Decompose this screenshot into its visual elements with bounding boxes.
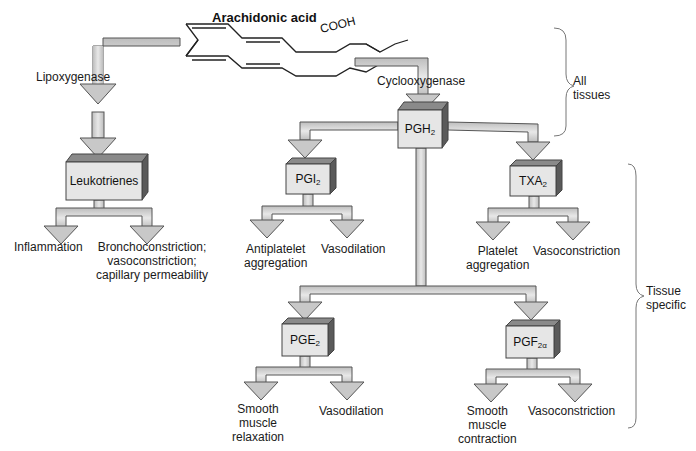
diagram-title: Arachidonic acid <box>212 10 317 25</box>
effect-platelet-aggregation: Platelet aggregation <box>466 244 529 272</box>
effect-bronchoconstriction: Bronchoconstriction; vasoconstriction; c… <box>96 240 208 282</box>
all-tissues-bracket <box>554 28 574 136</box>
effect-vasoconstriction-txa2: Vasoconstriction <box>533 244 620 258</box>
leukotrienes-label: Leukotrienes <box>66 174 142 188</box>
effect-vasoconstriction-pgf2a: Vasoconstriction <box>528 404 615 418</box>
pge2-label: PGE2 <box>282 333 328 348</box>
pgf2a-effect-arrows <box>474 358 592 402</box>
effect-vasodilation-pge2: Vasodilation <box>319 404 384 418</box>
pgi2-label: PGI2 <box>286 172 330 187</box>
diagram-canvas <box>0 0 696 451</box>
lipoxygenase-label: Lipoxygenase <box>36 70 110 84</box>
effect-antiplatelet-aggregation: Antiplatelet aggregation <box>244 242 307 270</box>
cyclooxygenase-label: Cyclooxygenase <box>377 74 465 88</box>
effect-vasodilation-pgi2: Vasodilation <box>321 242 386 256</box>
pgh2-label: PGH2 <box>398 122 442 137</box>
tissue-specific-bracket <box>628 164 644 428</box>
pgf2a-label: PGF2α <box>506 335 554 350</box>
txa2-label: TXA2 <box>510 174 556 189</box>
all-tissues-label: All tissues <box>573 74 610 102</box>
effect-inflammation: Inflammation <box>14 240 83 254</box>
pge2-effect-arrows <box>244 356 364 400</box>
effect-smooth-muscle-contraction: Smooth muscle contraction <box>458 404 517 446</box>
arachidonic-acid-structure <box>186 24 408 76</box>
leukotrienes-effect-arrows <box>44 200 164 244</box>
pgi2-effect-arrows <box>250 194 364 238</box>
pgh2-branch-pipes <box>288 122 550 320</box>
txa2-effect-arrows <box>476 196 590 240</box>
tissue-specific-label: Tissue specific <box>646 284 686 312</box>
lipoxygenase-pathway-pipe <box>80 38 180 158</box>
effect-smooth-muscle-relaxation: Smooth muscle relaxation <box>232 402 284 444</box>
